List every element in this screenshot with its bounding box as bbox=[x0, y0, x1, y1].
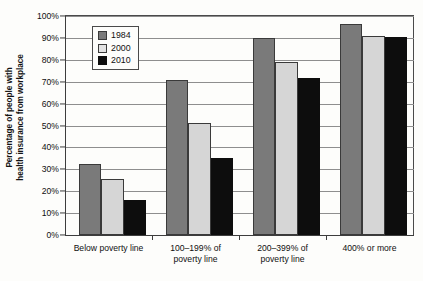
x-axis-category-label-line1: 200–399% of bbox=[257, 243, 308, 253]
y-axis-title-line1: Percentage of people with bbox=[5, 67, 14, 167]
y-axis-tick-label: 0% bbox=[25, 230, 59, 240]
y-axis-tick-label: 50% bbox=[25, 121, 59, 131]
y-axis-tick-label: 80% bbox=[25, 55, 59, 65]
x-axis-category-label: 100–199% ofpoverty line bbox=[152, 243, 239, 265]
y-axis-tick-label: 90% bbox=[25, 33, 59, 43]
legend-label-2000: 2000 bbox=[111, 44, 131, 53]
bar-1984-3 bbox=[253, 38, 276, 235]
y-axis-tick-label: 20% bbox=[25, 186, 59, 196]
x-axis-category-label: Below poverty line bbox=[65, 243, 152, 254]
y-axis-tick-label: 100% bbox=[25, 11, 59, 21]
legend-label-2010: 2010 bbox=[111, 56, 131, 65]
bar-2010-4 bbox=[385, 37, 408, 235]
bar-2000-1 bbox=[101, 179, 124, 235]
legend-swatch-2000-icon bbox=[98, 44, 107, 53]
chart-legend: 1984 2000 2010 bbox=[92, 26, 139, 70]
x-axis-tick-mark bbox=[326, 235, 327, 240]
bar-2000-4 bbox=[362, 36, 385, 235]
x-axis-category-label-line2: poverty line bbox=[239, 254, 326, 265]
legend-swatch-2010-icon bbox=[98, 56, 107, 65]
legend-item-2010: 2010 bbox=[98, 55, 131, 66]
bar-2010-1 bbox=[124, 200, 147, 235]
bar-2010-3 bbox=[298, 78, 321, 235]
bar-chart-figure: Percentage of people with health insuran… bbox=[0, 0, 423, 281]
bar-1984-1 bbox=[79, 164, 102, 235]
gridline bbox=[66, 16, 414, 17]
legend-label-1984: 1984 bbox=[111, 31, 131, 40]
x-axis-category-label-line1: Below poverty line bbox=[74, 243, 144, 253]
bar-2000-3 bbox=[275, 62, 298, 235]
bar-2010-2 bbox=[211, 158, 234, 235]
bar-1984-4 bbox=[340, 24, 363, 235]
y-axis-title-line2: health insurance from workplace bbox=[15, 54, 26, 180]
legend-item-1984: 1984 bbox=[98, 30, 131, 41]
x-axis-category-label: 400% or more bbox=[326, 243, 413, 254]
x-axis-tick-mark bbox=[239, 235, 240, 240]
legend-item-2000: 2000 bbox=[98, 43, 131, 54]
x-axis-category-label: 200–399% ofpoverty line bbox=[239, 243, 326, 265]
x-axis-category-label-line2: poverty line bbox=[152, 254, 239, 265]
y-axis-tick-label: 10% bbox=[25, 208, 59, 218]
bar-1984-2 bbox=[166, 80, 189, 235]
x-axis-category-label-line1: 100–199% of bbox=[170, 243, 221, 253]
y-axis-tick-label: 30% bbox=[25, 164, 59, 174]
x-axis-tick-mark bbox=[152, 235, 153, 240]
y-axis-tick-label: 60% bbox=[25, 99, 59, 109]
y-axis-tick-label: 40% bbox=[25, 142, 59, 152]
y-axis-tick-label: 70% bbox=[25, 77, 59, 87]
bar-2000-2 bbox=[188, 123, 211, 235]
legend-swatch-1984-icon bbox=[98, 31, 107, 40]
x-axis-category-label-line1: 400% or more bbox=[343, 243, 397, 253]
